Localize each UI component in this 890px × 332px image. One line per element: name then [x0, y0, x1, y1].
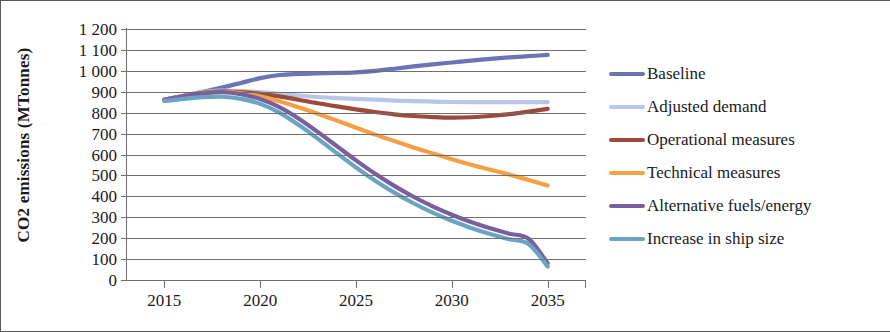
- legend-swatch-icon: [609, 105, 645, 109]
- gridline: [126, 196, 586, 197]
- x-tick-mark: [356, 281, 357, 288]
- x-tick-mark: [548, 281, 549, 288]
- gridline: [126, 71, 586, 72]
- legend-swatch-icon: [609, 138, 645, 142]
- y-tick-mark: [121, 155, 126, 156]
- gridline: [126, 113, 586, 114]
- legend-item[interactable]: Baseline: [609, 57, 887, 90]
- y-tick-mark: [121, 134, 126, 135]
- legend-item[interactable]: Operational measures: [609, 123, 887, 156]
- gridline: [126, 92, 586, 93]
- y-axis-title: CO2 emissions (MTonnes): [14, 0, 34, 290]
- x-axis-end-cap: [585, 281, 586, 288]
- gridline: [126, 29, 586, 30]
- y-tick-mark: [121, 196, 126, 197]
- x-axis-tick-labels: 20152020202520302035: [126, 291, 596, 317]
- y-tick-mark: [121, 238, 126, 239]
- x-tick-label: 2015: [147, 291, 181, 311]
- y-tick-label: 100: [92, 251, 118, 268]
- plot-area: [126, 29, 586, 280]
- legend-item-label: Increase in ship size: [647, 230, 784, 247]
- y-tick-label: 800: [92, 104, 118, 121]
- legend-item[interactable]: Technical measures: [609, 156, 887, 189]
- legend-swatch-icon: [609, 237, 645, 241]
- legend-swatch-icon: [609, 171, 645, 175]
- x-tick-label: 2035: [531, 291, 565, 311]
- y-tick-label: 600: [92, 146, 118, 163]
- y-tick-label: 1 200: [79, 21, 117, 38]
- y-tick-mark: [121, 217, 126, 218]
- y-axis-tick-labels: 1 2001 1001 0009008007006005004003002001…: [55, 29, 117, 280]
- y-tick-mark: [121, 113, 126, 114]
- x-tick-mark: [452, 281, 453, 288]
- legend-item-label: Alternative fuels/energy: [647, 197, 811, 214]
- chart-legend: BaselineAdjusted demandOperational measu…: [609, 57, 887, 255]
- y-tick-label: 1 000: [79, 62, 117, 79]
- legend-item-label: Operational measures: [647, 131, 795, 148]
- y-tick-mark: [121, 50, 126, 51]
- legend-item[interactable]: Alternative fuels/energy: [609, 189, 887, 222]
- y-tick-label: 0: [109, 272, 118, 289]
- gridline: [126, 175, 586, 176]
- gridline: [126, 259, 586, 260]
- x-tick-label: 2030: [435, 291, 469, 311]
- legend-item[interactable]: Increase in ship size: [609, 222, 887, 255]
- series-line: [164, 97, 547, 267]
- gridline: [126, 50, 586, 51]
- x-tick-mark: [164, 281, 165, 288]
- gridline: [126, 155, 586, 156]
- y-tick-mark: [121, 175, 126, 176]
- y-tick-mark: [121, 92, 126, 93]
- y-tick-mark: [121, 259, 126, 260]
- series-line: [164, 92, 547, 186]
- y-tick-label: 500: [92, 167, 118, 184]
- y-tick-label: 200: [92, 230, 118, 247]
- legend-item-label: Technical measures: [647, 164, 780, 181]
- legend-item-label: Adjusted demand: [647, 98, 766, 115]
- y-tick-label: 900: [92, 83, 118, 100]
- y-tick-label: 700: [92, 125, 118, 142]
- y-tick-label: 1 100: [79, 41, 117, 58]
- x-tick-mark: [260, 281, 261, 288]
- chart-figure: CO2 emissions (MTonnes) 1 2001 1001 0009…: [0, 0, 890, 332]
- gridline: [126, 134, 586, 135]
- y-tick-mark: [121, 29, 126, 30]
- x-tick-label: 2025: [339, 291, 373, 311]
- y-tick-mark: [121, 71, 126, 72]
- legend-swatch-icon: [609, 72, 645, 76]
- x-axis-line: [126, 280, 586, 289]
- y-tick-label: 400: [92, 188, 118, 205]
- legend-swatch-icon: [609, 204, 645, 208]
- y-tick-label: 300: [92, 209, 118, 226]
- legend-item[interactable]: Adjusted demand: [609, 90, 887, 123]
- x-tick-label: 2020: [243, 291, 277, 311]
- gridline: [126, 217, 586, 218]
- legend-item-label: Baseline: [647, 65, 706, 82]
- gridline: [126, 238, 586, 239]
